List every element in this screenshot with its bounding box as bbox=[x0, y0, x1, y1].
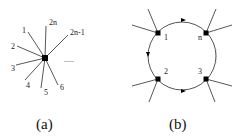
leg-3a bbox=[206, 79, 232, 86]
leg-a-4 bbox=[25, 58, 45, 80]
leg-3b bbox=[206, 79, 215, 102]
vertex-3 bbox=[204, 77, 209, 82]
vertex-1 bbox=[156, 31, 161, 36]
vertex-a bbox=[42, 55, 48, 61]
panel-a: 1234562n2n-1 ..... (a) bbox=[11, 18, 85, 133]
leg-1a bbox=[148, 9, 158, 33]
leg-2b bbox=[149, 79, 158, 102]
caption-a: (a) bbox=[36, 116, 53, 133]
legs-b bbox=[132, 9, 232, 102]
leg-label-a: 1 bbox=[22, 26, 26, 35]
panel-b: 1 n 2 3 (b) bbox=[132, 9, 232, 133]
leg-label-a: 5 bbox=[44, 88, 48, 97]
caption-b: (b) bbox=[169, 116, 187, 133]
leg-label-a: 2n-1 bbox=[70, 28, 85, 37]
label-vertex-2: 2 bbox=[164, 67, 168, 76]
vertex-2 bbox=[156, 77, 161, 82]
leg-label-a: 4 bbox=[26, 81, 30, 90]
label-vertex-3: 3 bbox=[198, 67, 202, 76]
label-vertex-n: n bbox=[198, 33, 202, 42]
leg-a-6 bbox=[45, 58, 58, 85]
leg-label-a: 2 bbox=[11, 42, 15, 51]
leg-label-a: 2n bbox=[49, 18, 57, 27]
ellipsis-a: ..... bbox=[64, 55, 74, 64]
leg-a-2n bbox=[45, 26, 46, 58]
feynman-diagram-figure: 1234562n2n-1 ..... (a) 1 n 2 3 bbox=[0, 0, 243, 136]
leg-nb bbox=[206, 25, 232, 33]
leg-a-5 bbox=[41, 58, 45, 88]
arrow-top bbox=[181, 18, 186, 22]
leg-a-3 bbox=[16, 58, 45, 65]
label-vertex-1: 1 bbox=[164, 33, 168, 42]
leg-2a bbox=[132, 79, 158, 86]
leg-label-a: 3 bbox=[11, 64, 15, 73]
arrow-left bbox=[146, 52, 150, 57]
leg-1b bbox=[132, 25, 158, 33]
leg-na bbox=[206, 9, 216, 33]
vertex-n bbox=[204, 31, 209, 36]
leg-label-a: 6 bbox=[60, 83, 64, 92]
